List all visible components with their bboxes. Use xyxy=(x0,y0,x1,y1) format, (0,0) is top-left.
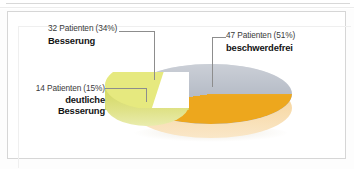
pie-label-deutliche-besserung: 14 Patienten (15%) deutliche Besserung xyxy=(13,84,105,117)
leader-line-beschwerdefrei-horizontal xyxy=(212,37,226,38)
pie-label-besserung-count: 32 Patienten (34%) xyxy=(48,24,117,34)
pie-label-besserung: 32 Patienten (34%) Besserung xyxy=(48,24,117,46)
pie-label-deutliche-besserung-name-line1: deutliche xyxy=(13,95,105,106)
leader-line-deutliche-besserung-vertical xyxy=(146,88,147,102)
pie-label-beschwerdefrei-name: beschwerdefrei xyxy=(226,42,295,53)
leader-line-deutliche-besserung-horizontal xyxy=(105,88,146,89)
pie-label-beschwerdefrei-count: 47 Patienten (51%) xyxy=(226,31,295,41)
pie-slice-top-deutliche-besserung xyxy=(105,72,189,108)
pie-label-besserung-name: Besserung xyxy=(48,35,117,46)
pie-label-deutliche-besserung-count: 14 Patienten (15%) xyxy=(13,84,105,94)
leader-line-besserung-vertical xyxy=(154,31,155,80)
pie-label-deutliche-besserung-name-line2: Besserung xyxy=(13,106,105,117)
leader-line-beschwerdefrei-vertical xyxy=(212,37,213,87)
figure-root: 32 Patienten (34%) Besserung 47 Patiente… xyxy=(0,0,354,169)
pie-label-beschwerdefrei: 47 Patienten (51%) beschwerdefrei xyxy=(226,31,295,53)
leader-line-besserung-horizontal xyxy=(119,31,154,32)
